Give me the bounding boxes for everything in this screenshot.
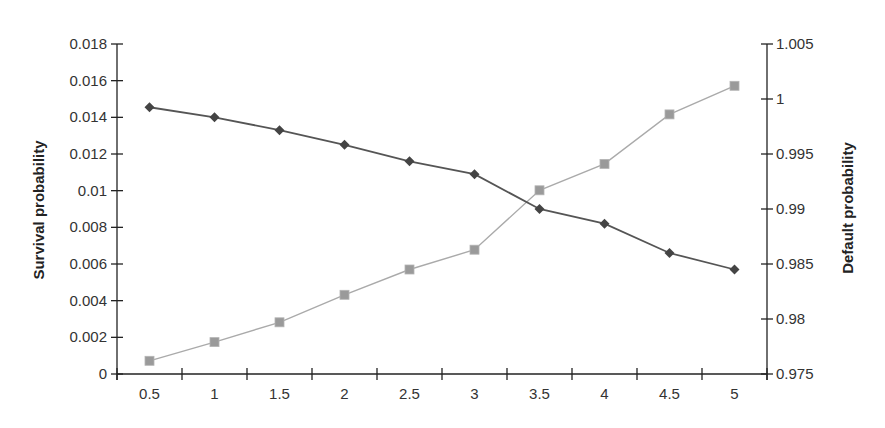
right-tick-label: 0.99 xyxy=(776,200,805,217)
left-tick-label: 0.016 xyxy=(69,72,107,89)
x-tick-label: 5 xyxy=(730,385,738,402)
right-tick-label: 0.995 xyxy=(776,145,814,162)
x-tick-label: 3.5 xyxy=(529,385,550,402)
left-tick-label: 0.014 xyxy=(69,108,107,125)
square-marker xyxy=(405,265,414,274)
left-tick-label: 0.01 xyxy=(78,182,107,199)
x-tick-label: 4 xyxy=(600,385,608,402)
left-tick-label: 0.012 xyxy=(69,145,107,162)
left-tick-label: 0.006 xyxy=(69,255,107,272)
diamond-marker xyxy=(665,248,675,258)
default-series xyxy=(145,81,739,365)
x-tick-label: 2.5 xyxy=(399,385,420,402)
left-tick-label: 0.018 xyxy=(69,35,107,52)
square-marker xyxy=(665,110,674,119)
diamond-marker xyxy=(600,219,610,229)
square-marker xyxy=(275,318,284,327)
left-tick-label: 0.002 xyxy=(69,328,107,345)
diamond-marker xyxy=(470,169,480,179)
square-marker xyxy=(145,356,154,365)
left-axis-title: Survival probability xyxy=(30,140,47,280)
diamond-marker xyxy=(210,112,220,122)
x-tick-label: 0.5 xyxy=(139,385,160,402)
x-tick-label: 1.5 xyxy=(269,385,290,402)
square-marker xyxy=(340,290,349,299)
x-tick-label: 2 xyxy=(340,385,348,402)
right-tick-label: 1 xyxy=(776,90,784,107)
right-y-axis: 0.9750.980.9850.990.99511.005 xyxy=(761,35,814,382)
x-axis: 0.511.522.533.544.55 xyxy=(117,368,767,402)
square-marker xyxy=(210,338,219,347)
square-marker xyxy=(600,159,609,168)
diamond-marker xyxy=(340,140,350,150)
x-tick-label: 1 xyxy=(210,385,218,402)
diamond-marker xyxy=(405,156,415,166)
survival-series xyxy=(145,102,740,274)
right-tick-label: 0.975 xyxy=(776,365,814,382)
left-tick-label: 0.008 xyxy=(69,218,107,235)
diamond-marker xyxy=(535,204,545,214)
square-marker xyxy=(730,81,739,90)
x-tick-label: 3 xyxy=(470,385,478,402)
diamond-marker xyxy=(730,265,740,275)
dual-axis-line-chart: 00.0020.0040.0060.0080.010.0120.0140.016… xyxy=(0,0,885,428)
diamond-marker xyxy=(145,102,155,112)
right-tick-label: 1.005 xyxy=(776,35,814,52)
right-tick-label: 0.985 xyxy=(776,255,814,272)
right-axis-title: Default probability xyxy=(839,142,856,274)
left-tick-label: 0 xyxy=(99,365,107,382)
diamond-marker xyxy=(275,125,285,135)
square-marker xyxy=(470,245,479,254)
left-tick-label: 0.004 xyxy=(69,292,107,309)
left-y-axis: 00.0020.0040.0060.0080.010.0120.0140.016… xyxy=(69,35,123,382)
series-layer xyxy=(145,81,740,365)
x-tick-label: 4.5 xyxy=(659,385,680,402)
right-tick-label: 0.98 xyxy=(776,310,805,327)
square-marker xyxy=(535,186,544,195)
